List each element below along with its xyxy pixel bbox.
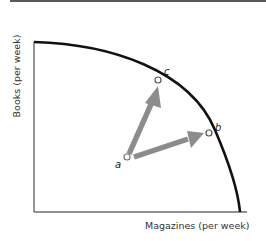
- point-b-label: b: [215, 122, 221, 133]
- ppf-diagram: [0, 0, 266, 241]
- point-a: [124, 154, 130, 160]
- x-axis-label: Magazines (per week): [145, 220, 250, 231]
- arrow-a-to-b: [134, 131, 204, 157]
- point-c: [155, 77, 161, 83]
- arrow-a-to-c: [129, 86, 161, 154]
- y-axis-label: Books (per week): [11, 31, 23, 121]
- point-c-label: c: [164, 66, 170, 77]
- frontier-curve: [34, 42, 240, 212]
- point-b: [206, 130, 212, 136]
- point-a-label: a: [115, 159, 121, 170]
